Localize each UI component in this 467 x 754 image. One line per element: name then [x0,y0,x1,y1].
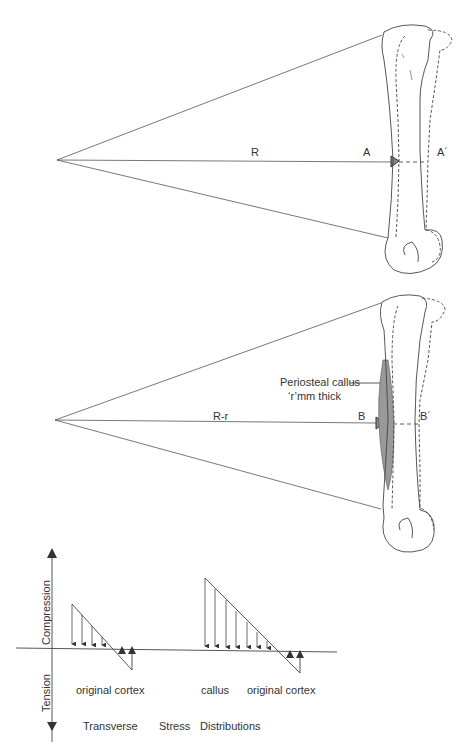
point-label-b: B [358,410,365,422]
caption-stress: Stress [159,720,190,732]
radius-label-a: R [251,146,259,158]
callus-label-line1: Periosteal callus [280,376,360,388]
axis-compression-label: Compression [40,580,52,645]
axis-arrow-down-icon [47,722,57,731]
axis-arrow-up-icon [47,548,57,558]
baseline [16,648,337,652]
radius-label-b: R-r [213,410,228,422]
point-prime-label-b: B´ [420,410,431,422]
axis-tension-label: Tension [40,674,52,712]
point-label-a: A [363,146,370,158]
diagram-canvas [0,0,467,754]
right-original-cortex-label: original cortex [247,684,315,696]
caption-distributions: Distributions [200,720,261,732]
point-prime-label-a: A´ [437,146,448,158]
callus-label-line2: ‘r’mm thick [288,390,341,402]
callus-label: callus [201,684,229,696]
left-original-cortex-label: original cortex [76,684,144,696]
caption-transverse: Transverse [83,720,138,732]
stress-plot [16,548,337,742]
arrow-head-a [391,156,399,167]
panel-b [55,295,445,552]
